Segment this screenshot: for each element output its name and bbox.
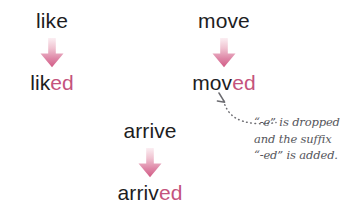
base-word-like: like — [36, 10, 68, 31]
word-group-move: move moved — [176, 10, 272, 93]
result-suffix: ed — [159, 181, 183, 204]
result-suffix: ed — [50, 71, 74, 94]
annotation-line-1: “-e” is dropped — [254, 114, 353, 131]
word-group-like: like liked — [6, 10, 98, 93]
annotation-line-2: and the suffix — [254, 131, 353, 148]
result-stem: mov — [192, 71, 232, 94]
down-arrow-icon — [211, 38, 237, 68]
result-stem: arriv — [118, 181, 159, 204]
base-word-move: move — [198, 10, 250, 31]
down-arrow-icon — [137, 148, 163, 178]
annotation-line-3: “-ed” is added. — [254, 147, 353, 164]
diagram-canvas: like liked move — [0, 0, 353, 204]
base-word-arrive: arrive — [123, 120, 176, 141]
result-word-moved: moved — [192, 72, 256, 93]
word-group-arrive: arrive arrived — [92, 120, 208, 203]
down-arrow-icon — [39, 38, 65, 68]
result-word-arrived: arrived — [118, 182, 183, 203]
result-suffix: ed — [232, 71, 256, 94]
result-word-liked: liked — [30, 72, 74, 93]
annotation-text: “-e” is dropped and the suffix “-ed” is … — [254, 114, 353, 164]
result-stem: lik — [30, 71, 50, 94]
